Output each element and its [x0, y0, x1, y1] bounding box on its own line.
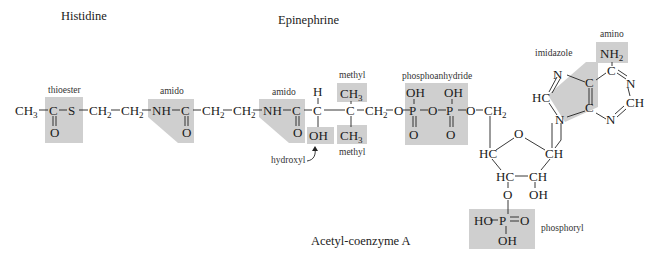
svg-text:O: O: [514, 126, 523, 141]
svg-text:HO: HO: [474, 213, 493, 228]
title-acetyl-coa: Acetyl-coenzyme A: [311, 234, 411, 248]
svg-text:CH2: CH2: [484, 103, 507, 120]
svg-text:OH: OH: [309, 128, 328, 143]
svg-text:C: C: [585, 100, 594, 115]
label-imidazole: imidazole: [535, 48, 572, 58]
svg-text:C: C: [181, 103, 190, 118]
svg-text:O: O: [446, 127, 455, 142]
title-histidine: Histidine: [61, 9, 107, 23]
svg-text:C: C: [49, 103, 58, 118]
bonds: [39, 62, 630, 234]
svg-text:O: O: [394, 103, 403, 118]
svg-text:C: C: [292, 103, 301, 118]
svg-text:O: O: [50, 125, 59, 140]
svg-text:O: O: [182, 125, 191, 140]
svg-text:HC: HC: [532, 90, 550, 105]
svg-text:C: C: [607, 63, 616, 78]
svg-text:C: C: [346, 103, 355, 118]
atoms: CH3 C O S CH2 CH2 NH C O CH2 CH2 NH C O …: [15, 46, 644, 248]
svg-text:O: O: [409, 127, 418, 142]
svg-text:CH2: CH2: [121, 103, 144, 120]
svg-text:O: O: [503, 187, 512, 202]
label-thioester: thioester: [48, 85, 82, 95]
svg-text:OH: OH: [498, 233, 517, 248]
svg-text:OH: OH: [529, 187, 548, 202]
svg-text:S: S: [68, 103, 75, 118]
label-phosphoryl: phosphoryl: [541, 223, 584, 233]
svg-text:O: O: [293, 125, 302, 140]
label-phosphoanhydride: phosphoanhydride: [402, 71, 472, 81]
label-amino: amino: [600, 29, 624, 39]
svg-text:CH2: CH2: [233, 103, 256, 120]
svg-text:P: P: [409, 103, 416, 118]
svg-text:H: H: [313, 84, 322, 99]
acetyl-coa-structure-diagram: CH3 C O S CH2 CH2 NH C O CH2 CH2 NH C O …: [0, 0, 652, 260]
label-hydroxyl: hydroxyl: [271, 155, 306, 165]
label-methyl-top: methyl: [339, 70, 366, 80]
svg-text:P: P: [499, 213, 506, 228]
svg-text:O: O: [466, 103, 475, 118]
svg-text:OH: OH: [444, 85, 463, 100]
svg-text:N: N: [555, 112, 565, 127]
arrowhead-icon: [312, 146, 318, 151]
svg-text:C: C: [313, 103, 322, 118]
svg-text:N: N: [553, 67, 563, 82]
group-labels: thioester amido amido methyl methyl hydr…: [48, 29, 624, 233]
svg-text:CH2: CH2: [365, 103, 388, 120]
title-epinephrine: Epinephrine: [278, 13, 340, 27]
svg-text:HC: HC: [479, 146, 497, 161]
svg-text:N: N: [626, 76, 636, 91]
label-methyl-bottom: methyl: [339, 147, 366, 157]
svg-text:CH: CH: [626, 95, 644, 110]
svg-text:P: P: [446, 103, 453, 118]
svg-text:NH: NH: [263, 103, 282, 118]
svg-text:CH: CH: [529, 169, 547, 184]
svg-text:CH2: CH2: [89, 103, 112, 120]
svg-text:CH: CH: [545, 146, 563, 161]
label-amido-2: amido: [272, 87, 296, 97]
label-amido-1: amido: [160, 86, 184, 96]
svg-text:NH: NH: [152, 103, 171, 118]
svg-text:CH2: CH2: [202, 103, 225, 120]
svg-text:OH: OH: [406, 85, 425, 100]
svg-text:CH3: CH3: [15, 103, 38, 120]
svg-text:N: N: [606, 112, 616, 127]
svg-text:O: O: [428, 103, 437, 118]
svg-text:HC: HC: [496, 169, 514, 184]
svg-text:O: O: [520, 213, 529, 228]
svg-text:C: C: [585, 75, 594, 90]
